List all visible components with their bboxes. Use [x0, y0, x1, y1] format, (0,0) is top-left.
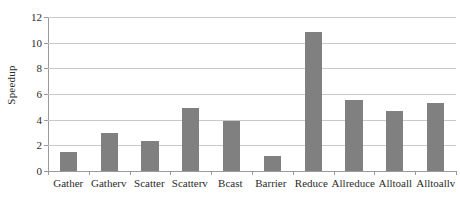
bar: [305, 32, 322, 171]
y-tick-label: 0: [37, 165, 43, 177]
bar-item: [170, 17, 211, 171]
x-tick-mark: [374, 171, 375, 175]
x-tick-mark: [130, 171, 131, 175]
x-axis-category-labels: GatherGathervScatterScattervBcastBarrier…: [48, 177, 456, 197]
x-tick-mark: [211, 171, 212, 175]
x-tick-mark: [293, 171, 294, 175]
y-tick-label: 6: [37, 88, 43, 100]
bar-item: [89, 17, 130, 171]
y-tick-label: 8: [37, 62, 43, 74]
x-category-label: Barrier: [251, 177, 292, 197]
x-category-label: Alltoallv: [416, 177, 457, 197]
bar-item: [48, 17, 89, 171]
x-category-label: Bcast: [210, 177, 251, 197]
x-category-label: Gatherv: [89, 177, 130, 197]
x-tick-mark: [170, 171, 171, 175]
x-category-label: Allreduce: [332, 177, 375, 197]
bar: [264, 156, 281, 171]
plot-area: [48, 17, 456, 171]
bar-item: [211, 17, 252, 171]
x-tick-mark: [334, 171, 335, 175]
bar: [427, 103, 444, 171]
y-tick-label: 12: [31, 11, 42, 23]
x-axis-tick-marks: [48, 171, 456, 176]
bar: [345, 100, 362, 171]
bar: [182, 108, 199, 171]
bar: [60, 152, 77, 171]
x-category-label: Reduce: [291, 177, 332, 197]
bar: [101, 133, 118, 172]
y-tick-label: 10: [31, 37, 42, 49]
x-tick-mark: [415, 171, 416, 175]
bar-item: [252, 17, 293, 171]
y-axis-tick-labels: 024681012: [18, 0, 46, 203]
x-category-label: Scatter: [129, 177, 170, 197]
x-tick-mark: [48, 171, 49, 175]
bar: [386, 111, 403, 171]
bar-item: [293, 17, 334, 171]
bar: [223, 121, 240, 171]
bar-item: [415, 17, 456, 171]
x-tick-mark: [456, 171, 457, 175]
y-axis-title-text: Speedup: [5, 65, 17, 104]
x-tick-mark: [89, 171, 90, 175]
bar-item: [130, 17, 171, 171]
bar-series: [48, 17, 456, 171]
bar-item: [334, 17, 375, 171]
x-category-label: Scatterv: [170, 177, 211, 197]
x-tick-mark: [252, 171, 253, 175]
y-tick-label: 2: [37, 139, 43, 151]
y-tick-label: 4: [37, 114, 43, 126]
x-category-label: Gather: [48, 177, 89, 197]
x-category-label: Alltoall: [375, 177, 416, 197]
bar-chart-figure: Speedup 024681012 GatherGathervScatterSc…: [0, 0, 460, 203]
bar-item: [374, 17, 415, 171]
bar: [141, 141, 158, 171]
